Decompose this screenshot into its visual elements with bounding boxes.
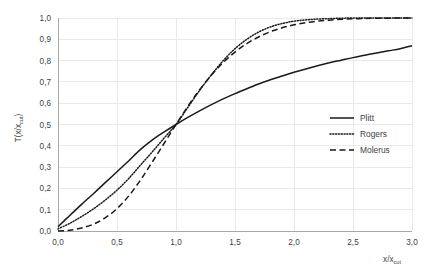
chart-container: 0,00,10,20,30,40,50,60,70,80,91,0 0,00,5… — [0, 0, 426, 272]
legend-label-plitt: Plitt — [360, 113, 375, 123]
legend-label-molerus: Molerus — [360, 145, 390, 155]
y-tick-label: 0,4 — [40, 142, 52, 151]
y-tick-label: 0,9 — [40, 35, 52, 44]
x-tick-label: 1,0 — [170, 238, 182, 247]
legend-label-rogers: Rogers — [360, 129, 387, 139]
x-tick-label: 0,5 — [111, 238, 123, 247]
partition-curve-chart: 0,00,10,20,30,40,50,60,70,80,91,0 0,00,5… — [0, 0, 426, 272]
x-tick-label: 2,0 — [288, 238, 300, 247]
x-tick-label: 3,0 — [406, 238, 418, 247]
y-tick-label: 0,1 — [40, 206, 52, 215]
y-tick-label: 0,6 — [40, 99, 52, 108]
y-tick-label: 0,8 — [40, 57, 52, 66]
x-tick-label: 1,5 — [229, 238, 241, 247]
y-tick-label: 0,2 — [40, 184, 52, 193]
y-tick-label: 0,5 — [40, 121, 52, 130]
x-tick-label: 2,5 — [347, 238, 359, 247]
y-tick-label: 0,0 — [40, 227, 52, 236]
x-tick-label: 0,0 — [52, 238, 64, 247]
y-tick-label: 0,3 — [40, 163, 52, 172]
y-tick-label: 0,7 — [40, 78, 52, 87]
y-tick-label: 1,0 — [40, 14, 52, 23]
